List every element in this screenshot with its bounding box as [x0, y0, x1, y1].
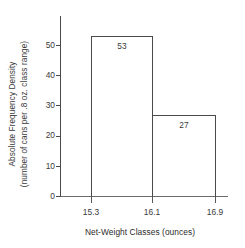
y-tick-label-0: 0	[15, 192, 55, 201]
y-tick-label-10: 10	[15, 162, 55, 171]
y-tick-mark-50	[56, 45, 61, 46]
y-tick-mark-20	[56, 136, 61, 137]
y-tick-label-50: 50	[15, 41, 55, 50]
histogram-bar-2[interactable]: 27	[152, 115, 216, 197]
histogram-chart: Absolute Frequency Density (number of ca…	[0, 0, 245, 248]
y-tick-mark-30	[56, 105, 61, 106]
x-tick-mark-16-1	[152, 197, 153, 203]
y-tick-mark-0	[56, 196, 61, 197]
x-tick-label-15-3: 15.3	[71, 207, 111, 217]
histogram-bar-1[interactable]: 53	[91, 36, 153, 197]
x-axis-title: Net-Weight Classes (ounces)	[40, 227, 240, 238]
y-axis-line	[60, 16, 61, 197]
x-tick-label-16-1: 16.1	[132, 207, 172, 217]
x-tick-mark-15-3	[91, 197, 92, 203]
y-tick-label-30: 30	[15, 101, 55, 110]
y-tick-mark-10	[56, 166, 61, 167]
bar-value-label-2: 27	[153, 120, 215, 130]
bar-value-label-1: 53	[92, 41, 152, 51]
y-tick-mark-40	[56, 75, 61, 76]
x-tick-mark-16-9	[215, 197, 216, 203]
x-tick-label-16-9: 16.9	[195, 207, 235, 217]
y-tick-label-20: 20	[15, 131, 55, 140]
y-tick-label-40: 40	[15, 71, 55, 80]
